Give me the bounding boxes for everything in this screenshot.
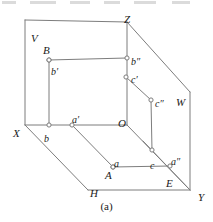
axis-label-O: O bbox=[118, 118, 126, 129]
axis-label-X: X bbox=[13, 128, 20, 139]
plane-label-W: W bbox=[176, 97, 185, 108]
point-marker-B bbox=[47, 58, 51, 62]
projection-label-a: a bbox=[114, 159, 119, 169]
segment-b-prime-to-b-double bbox=[49, 58, 127, 60]
projection-label-c-double: c″ bbox=[155, 99, 164, 109]
segment-v-plane-top-edge bbox=[25, 20, 127, 22]
segment-c-double-to-c bbox=[151, 100, 152, 150]
axis-label-Z: Z bbox=[124, 14, 130, 25]
figure-panel: V H W X Y Z O A B E a a′ a″ b b′ b″ c c′… bbox=[0, 0, 213, 222]
point-label-A: A bbox=[105, 170, 112, 181]
point-marker-c-prime bbox=[124, 75, 128, 79]
point-label-E: E bbox=[166, 178, 173, 189]
plane-label-V: V bbox=[31, 33, 38, 44]
projection-label-a-prime: a′ bbox=[72, 115, 79, 125]
projection-label-b: b bbox=[44, 134, 49, 144]
projection-label-c-prime: c′ bbox=[131, 75, 138, 85]
point-marker-c bbox=[150, 148, 154, 152]
point-label-B: B bbox=[43, 45, 50, 56]
projection-label-b-double: b″ bbox=[131, 57, 140, 67]
projection-label-c: c bbox=[150, 161, 154, 171]
figure-caption: (a) bbox=[0, 200, 213, 212]
point-marker-b bbox=[47, 123, 51, 127]
point-marker-c-double bbox=[149, 98, 153, 102]
projection-label-a-double: a″ bbox=[171, 157, 180, 167]
plane-label-H: H bbox=[90, 188, 98, 199]
segment-a-to-a-double bbox=[113, 166, 170, 167]
segment-a-prime-to-a bbox=[72, 125, 113, 167]
projection-label-b-prime: b′ bbox=[51, 67, 58, 77]
point-marker-b-double bbox=[125, 56, 129, 60]
segment-x-to-h-corner bbox=[25, 125, 88, 190]
segment-c-prime-to-c-double bbox=[126, 77, 151, 100]
